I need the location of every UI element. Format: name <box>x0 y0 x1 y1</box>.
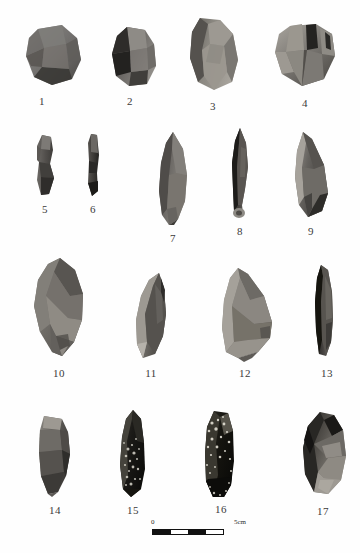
artifact-6 <box>86 133 101 197</box>
artifact-16-image <box>202 409 237 501</box>
artifact-9 <box>292 131 330 221</box>
artifact-1-image <box>22 22 84 88</box>
artifact-label-4: 4 <box>290 97 320 109</box>
artifact-8-image <box>229 127 251 220</box>
artifact-4 <box>272 22 338 88</box>
artifact-label-9: 9 <box>296 225 326 237</box>
artifact-1 <box>22 22 84 88</box>
artifact-4-image <box>272 22 338 88</box>
artifact-15 <box>117 409 148 499</box>
artifact-label-8: 8 <box>225 225 255 237</box>
artifact-6-image <box>86 133 101 197</box>
artifact-13 <box>312 264 336 360</box>
artifact-7 <box>156 131 190 227</box>
artifact-15-image <box>117 409 148 499</box>
artifact-9-image <box>292 131 330 221</box>
artifact-label-16: 16 <box>206 503 236 515</box>
artifact-14 <box>36 414 74 497</box>
artifact-label-7: 7 <box>158 232 188 244</box>
artifact-8 <box>229 127 251 220</box>
artifact-12-image <box>214 266 276 362</box>
artifact-17 <box>300 410 348 498</box>
scale-bar-end-label: 5cm <box>234 518 246 526</box>
artifact-12 <box>214 266 276 362</box>
artifact-3 <box>186 16 241 92</box>
artifact-5-image <box>35 134 57 197</box>
artifact-label-6: 6 <box>78 203 108 215</box>
scale-bar: 0 5cm <box>152 521 234 537</box>
artifact-17-image <box>300 410 348 498</box>
artifact-10-image <box>30 256 88 361</box>
artifact-label-15: 15 <box>118 504 148 516</box>
artifact-16 <box>202 409 237 501</box>
scale-bar-start-label: 0 <box>151 518 155 526</box>
scale-bar-track <box>152 529 224 535</box>
artifact-10 <box>30 256 88 361</box>
artifact-label-10: 10 <box>44 367 74 379</box>
figure-plate: 1 2 3 4 5 6 7 8 9 10 11 12 13 14 15 16 1… <box>0 0 360 553</box>
artifact-label-12: 12 <box>230 367 260 379</box>
artifact-label-17: 17 <box>308 505 338 517</box>
artifact-14-image <box>36 414 74 497</box>
scale-bar-segment <box>171 530 189 534</box>
artifact-3-image <box>186 16 241 92</box>
artifact-7-image <box>156 131 190 227</box>
artifact-13-image <box>312 264 336 360</box>
artifact-label-2: 2 <box>115 95 145 107</box>
scale-bar-segment <box>153 530 171 534</box>
artifact-label-14: 14 <box>40 504 70 516</box>
artifact-5 <box>35 134 57 197</box>
artifact-label-13: 13 <box>312 367 342 379</box>
artifact-label-1: 1 <box>27 95 57 107</box>
artifact-label-5: 5 <box>30 203 60 215</box>
artifact-2 <box>107 24 159 89</box>
scale-bar-segment <box>206 530 224 534</box>
scale-bar-segment <box>188 530 206 534</box>
artifact-11-image <box>133 272 168 360</box>
artifact-label-11: 11 <box>136 367 166 379</box>
artifact-2-image <box>107 24 159 89</box>
artifact-11 <box>133 272 168 360</box>
artifact-label-3: 3 <box>198 100 228 112</box>
